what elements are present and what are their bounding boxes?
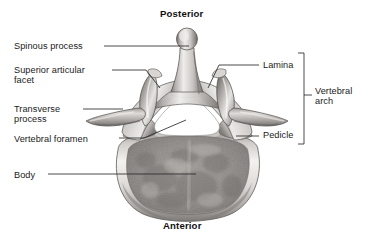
- vertebral-body: [116, 129, 259, 222]
- label-vertebral-foramen: Vertebral foramen: [14, 134, 88, 144]
- label-body: Body: [14, 170, 35, 180]
- label-superior-articular-facet: Superior articular facet: [14, 65, 85, 86]
- orientation-label-anterior: Anterior: [163, 220, 202, 231]
- label-transverse-process: Transverse process: [14, 104, 60, 125]
- orientation-label-posterior: Posterior: [160, 8, 203, 19]
- label-lamina: Lamina: [263, 60, 293, 70]
- label-pedicle: Pedicle: [263, 130, 293, 140]
- label-spinous-process: Spinous process: [14, 41, 83, 51]
- vertebra-diagram: Spinous process Superior articular facet…: [0, 0, 373, 238]
- vertebral-arch-bracket: [298, 53, 312, 144]
- label-vertebral-arch: Vertebral arch: [315, 86, 352, 107]
